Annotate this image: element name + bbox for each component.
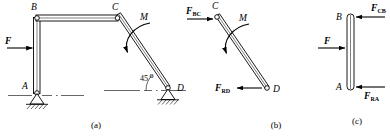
member-AB-fbd [347, 14, 354, 90]
svg-text:BC: BC [193, 11, 201, 17]
label-M-a: M [139, 12, 149, 22]
caption-a: (a) [91, 120, 101, 130]
svg-text:o: o [150, 71, 154, 80]
label-A-c: A [335, 82, 342, 92]
support-A-pin [26, 94, 48, 110]
label-C-b: C [212, 1, 219, 11]
label-B-c: B [336, 12, 342, 22]
joint-D-pin-b [265, 86, 270, 91]
svg-text:CB: CB [378, 8, 386, 14]
support-D-pin [157, 89, 179, 105]
label-FBC: F BC [185, 6, 201, 17]
label-angle-45-a: 45 o [140, 71, 154, 84]
label-B-a: B [31, 2, 37, 12]
label-M-b: M [238, 13, 248, 23]
figure-root: B C A D F M 45 o (a) F BC C M [0, 0, 390, 136]
caption-b: (b) [271, 120, 282, 130]
joint-C-pin [115, 16, 120, 21]
joint-B-pin [35, 16, 40, 21]
joint-C-pin-b [215, 15, 220, 20]
label-F-a: F [4, 36, 12, 46]
label-D-b: D [272, 84, 280, 94]
part-a: B C A D F M 45 o (a) [4, 2, 186, 130]
part-c: B A F F CB F RA (c) [318, 3, 386, 126]
label-F-c: F [323, 36, 331, 46]
svg-text:RD: RD [222, 88, 231, 94]
label-FRA: F RA [363, 91, 380, 102]
label-C-a: C [112, 2, 119, 12]
label-D-a: D [176, 83, 184, 93]
caption-c: (c) [352, 116, 362, 126]
part-b: F BC C M F RD D (b) [185, 1, 281, 130]
svg-text:45: 45 [140, 74, 148, 83]
member-CD-fbd [216, 14, 270, 89]
svg-text:RA: RA [371, 96, 380, 102]
label-FRD: F RD [214, 83, 231, 94]
label-A-a: A [21, 81, 28, 91]
member-BC [36, 15, 118, 21]
label-FCB: F CB [370, 3, 386, 14]
member-AB [34, 18, 41, 94]
